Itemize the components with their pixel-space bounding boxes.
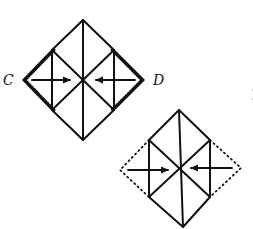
origami-diagram: C D <box>0 0 253 229</box>
step1-diagram <box>23 20 144 140</box>
label-c: C <box>3 72 14 88</box>
stray-marks <box>252 89 253 100</box>
label-d: D <box>152 72 164 88</box>
step2-diagram <box>120 110 241 227</box>
dotted-left-corner <box>120 140 149 197</box>
